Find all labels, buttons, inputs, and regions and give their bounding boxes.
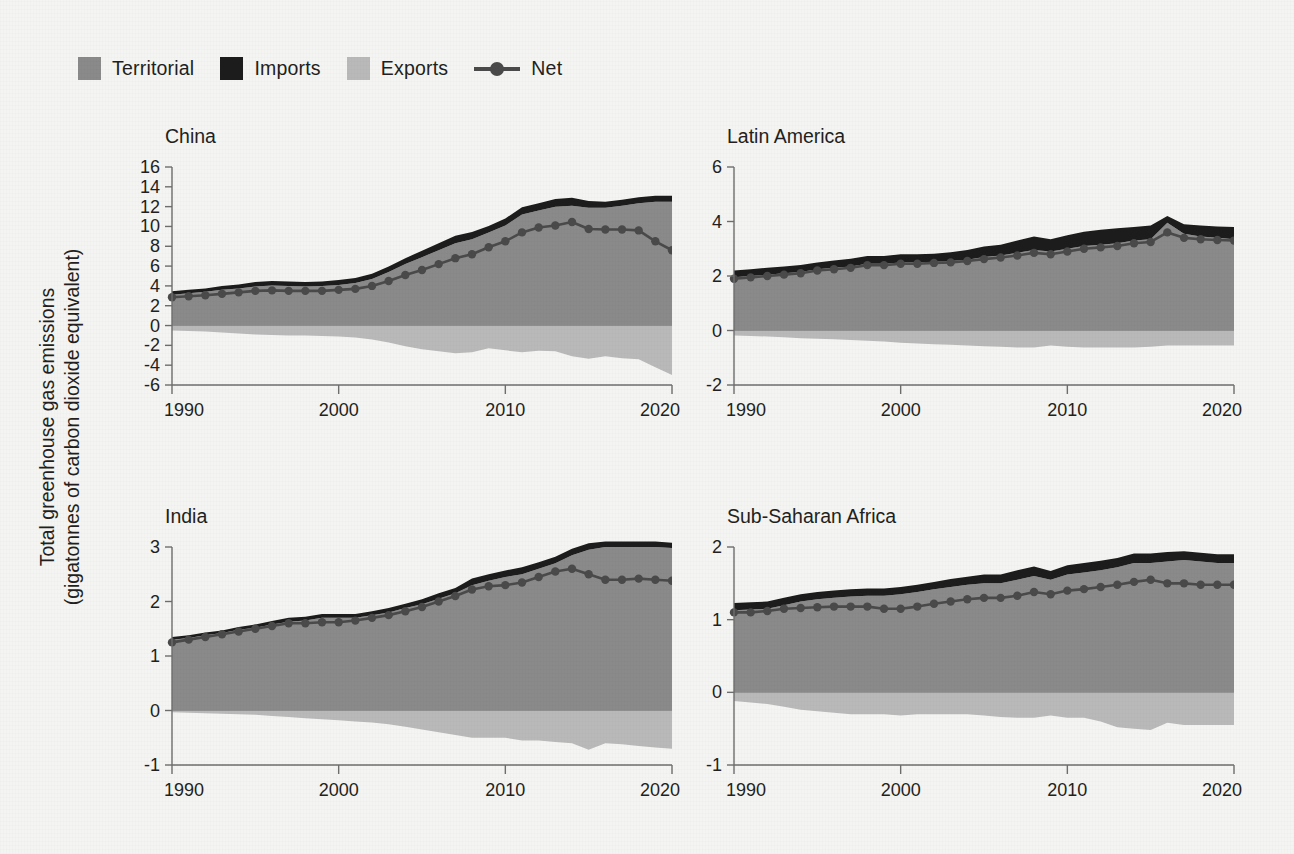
- area-exports: [734, 692, 1234, 730]
- y-tick-label: 4: [712, 212, 722, 232]
- y-tick-label: 0: [712, 682, 722, 702]
- x-tick-label: 2000: [319, 400, 359, 420]
- y-axis-label-line1: Total greenhouse gas emissions: [36, 288, 58, 567]
- y-tick-label: 6: [150, 256, 160, 276]
- x-tick-label: 2010: [485, 780, 525, 800]
- panel-china: China -6-4-20246810121416199020002010202…: [110, 125, 690, 425]
- y-tick-label: 4: [150, 276, 160, 296]
- panel-title-sub-saharan-africa: Sub-Saharan Africa: [727, 505, 896, 528]
- area-exports: [172, 711, 672, 750]
- y-tick-label: 0: [712, 321, 722, 341]
- area-territorial: [734, 223, 1234, 331]
- y-tick-label: -4: [144, 355, 160, 375]
- panel-title-china: China: [165, 125, 216, 148]
- legend-label-exports: Exports: [381, 57, 449, 80]
- x-tick-label: 2010: [1047, 400, 1087, 420]
- y-tick-label: 1: [150, 646, 160, 666]
- plot-area-latin-america: -202461990200020102020: [672, 125, 1252, 425]
- legend-label-net: Net: [531, 57, 562, 80]
- legend-item-exports[interactable]: Exports: [347, 57, 449, 80]
- x-tick-label: 1990: [726, 780, 766, 800]
- panel-title-india: India: [165, 505, 207, 528]
- area-territorial: [172, 202, 672, 326]
- legend-item-imports[interactable]: Imports: [220, 57, 320, 80]
- legend-label-territorial: Territorial: [112, 57, 194, 80]
- y-tick-label: 14: [140, 177, 160, 197]
- plot-area-sub-saharan-africa: -10121990200020102020: [672, 505, 1252, 805]
- area-exports: [734, 331, 1234, 348]
- y-tick-label: -1: [144, 755, 160, 775]
- y-tick-label: 8: [150, 236, 160, 256]
- y-tick-label: 16: [140, 157, 160, 177]
- y-tick-label: 2: [150, 296, 160, 316]
- y-tick-label: 0: [150, 316, 160, 336]
- plot-area-india: -101231990200020102020: [110, 505, 690, 805]
- y-tick-label: 12: [140, 197, 160, 217]
- x-tick-label: 2000: [881, 400, 921, 420]
- x-tick-label: 2000: [881, 780, 921, 800]
- square-swatch-icon: [220, 57, 243, 80]
- legend-item-territorial[interactable]: Territorial: [78, 57, 194, 80]
- y-axis-label: Total greenhouse gas emissions (gigatonn…: [28, 0, 92, 854]
- panel-sub-saharan-africa: Sub-Saharan Africa -10121990200020102020: [672, 505, 1252, 805]
- y-tick-label: 2: [712, 537, 722, 557]
- x-tick-label: 1990: [726, 400, 766, 420]
- x-tick-label: 2010: [485, 400, 525, 420]
- x-tick-label: 1990: [164, 780, 204, 800]
- figure-canvas: Territorial Imports Exports Net Total gr…: [0, 0, 1294, 854]
- y-tick-label: -6: [144, 375, 160, 395]
- y-tick-label: 3: [150, 537, 160, 557]
- x-tick-label: 2020: [1202, 780, 1242, 800]
- panel-india: India -101231990200020102020: [110, 505, 690, 805]
- line-with-dot-icon: [474, 57, 520, 80]
- y-tick-label: 1: [712, 610, 722, 630]
- y-tick-label: -2: [706, 375, 722, 395]
- y-tick-label: 6: [712, 157, 722, 177]
- y-tick-label: 0: [150, 701, 160, 721]
- x-tick-label: 1990: [164, 400, 204, 420]
- y-axis-label-line2: (gigatonnes of carbon dioxide equivalent…: [61, 249, 83, 606]
- panel-title-latin-america: Latin America: [727, 125, 845, 148]
- y-tick-label: 10: [140, 216, 160, 236]
- panel-latin-america: Latin America -202461990200020102020: [672, 125, 1252, 425]
- square-swatch-icon: [347, 57, 370, 80]
- legend-label-imports: Imports: [254, 57, 320, 80]
- y-tick-label: 2: [712, 266, 722, 286]
- x-tick-label: 2010: [1047, 780, 1087, 800]
- chart-legend: Territorial Imports Exports Net: [78, 57, 562, 80]
- legend-item-net[interactable]: Net: [474, 57, 562, 80]
- y-tick-label: -1: [706, 755, 722, 775]
- x-tick-label: 2020: [1202, 400, 1242, 420]
- plot-area-china: -6-4-202468101214161990200020102020: [110, 125, 690, 425]
- y-tick-label: 2: [150, 592, 160, 612]
- y-tick-label: -2: [144, 335, 160, 355]
- area-exports: [172, 326, 672, 376]
- x-tick-label: 2000: [319, 780, 359, 800]
